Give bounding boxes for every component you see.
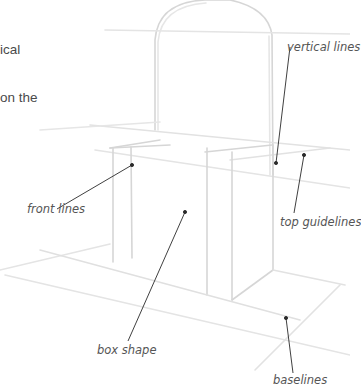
leader-top-guidelines [294,155,304,213]
label-baselines: baselines [273,373,327,387]
label-box-shape: box shape [97,343,157,357]
arch [155,0,273,175]
sketch-lines [0,0,350,370]
label-vertical-lines: vertical lines [287,40,360,54]
leader-baselines [286,318,293,373]
label-top-guidelines: top guidelines [280,215,361,229]
leader-lines [57,47,306,373]
leader-vertical-lines [276,47,290,163]
label-front-lines: front lines [27,202,85,216]
